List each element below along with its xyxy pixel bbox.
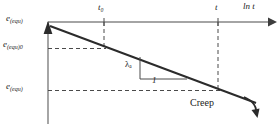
- tick-label-t: t: [215, 3, 218, 12]
- slope-run-label: 1: [152, 76, 157, 85]
- x-axis-arrowhead-icon: [268, 18, 277, 27]
- y-mid-sub: (equ)0: [7, 44, 23, 50]
- ln-t-axis-label: ln t: [243, 2, 255, 11]
- creep-arrowhead-icon: [252, 109, 260, 119]
- y-bot-sub: (equ): [10, 86, 23, 92]
- creep-diagram-figure: e(equ) e(equ)0 e(equ) t₀ t ln t λₐ 1 Cre…: [0, 0, 279, 127]
- tick-label-t0: t₀: [98, 3, 104, 12]
- y-axis-label-equ-bottom: e(equ): [6, 82, 23, 91]
- y-axis-label-equ-zero: e(equ)0: [3, 40, 23, 49]
- creep-line: [50, 26, 256, 103]
- diagram-canvas: [0, 0, 279, 127]
- slope-rise-label: λₐ: [125, 60, 132, 69]
- creep-annotation: Creep: [190, 98, 214, 108]
- y-axis-label-equ-top: e(equ): [6, 14, 23, 23]
- y-top-sub: (equ): [10, 18, 23, 24]
- y-axis-arrowhead-icon: [44, 21, 53, 34]
